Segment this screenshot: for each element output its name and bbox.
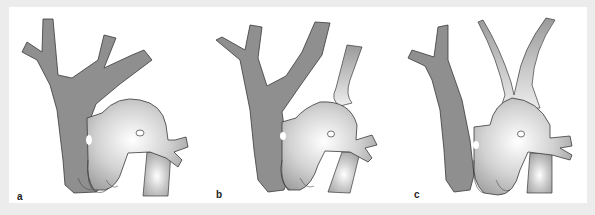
aortic-arch [474, 98, 572, 195]
vessel-gap [473, 141, 479, 149]
vessel-gap [86, 135, 92, 145]
panel-label-b: b [216, 190, 222, 200]
panel-a [22, 19, 188, 196]
ascending-branch [334, 45, 362, 106]
panel-label-a: a [17, 192, 23, 202]
descending-vessel [527, 153, 552, 193]
panel-c [408, 18, 572, 195]
venous-trunk [408, 25, 474, 192]
descending-vessel [328, 152, 360, 193]
aortic-arch [281, 102, 377, 190]
vessel-opening [518, 131, 525, 137]
vessel-gap [280, 132, 286, 140]
aortic-arch [87, 99, 188, 190]
vessel-opening [328, 131, 335, 137]
panel-label-c: c [414, 190, 420, 200]
anatomy-illustration [0, 0, 595, 215]
panel-b [216, 22, 377, 193]
vessel-opening [136, 130, 144, 136]
ascending-branches [478, 18, 555, 110]
